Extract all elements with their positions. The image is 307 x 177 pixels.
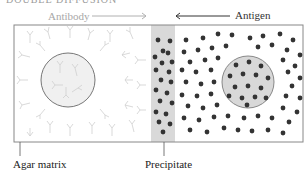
antigen-arrow-icon xyxy=(176,13,230,19)
antibody-well xyxy=(41,53,95,107)
double-diffusion-diagram xyxy=(0,0,307,177)
antibody-arrow-icon xyxy=(92,13,146,19)
